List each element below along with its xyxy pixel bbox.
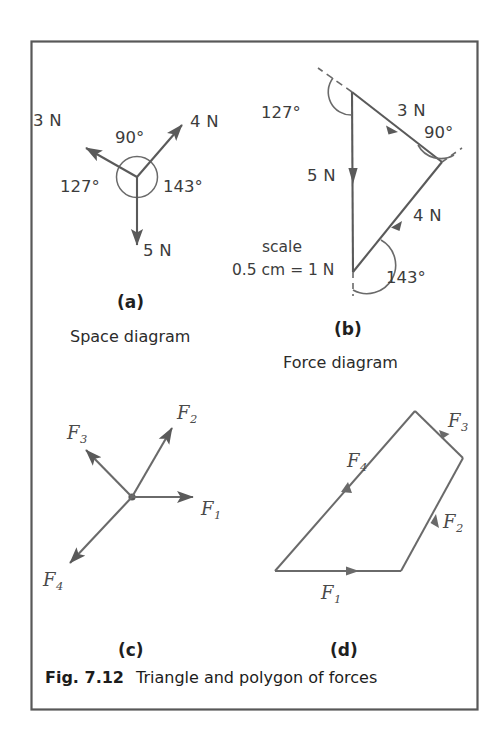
vector-F3 <box>86 450 132 497</box>
label-a-angle-90: 90° <box>115 130 144 147</box>
label-b-tag: (b) <box>334 321 362 338</box>
label-a-tag: (a) <box>117 294 144 311</box>
label-c-F4-index: 4 <box>56 579 63 593</box>
label-d-F1: F1 <box>321 584 341 602</box>
figure-number: Fig. 7.12 <box>45 668 124 687</box>
label-d-F1-index: 1 <box>334 592 341 606</box>
label-c-F1-index: 1 <box>214 508 221 522</box>
dashed-extension-right <box>442 148 462 162</box>
label-b-force-3n: 3 N <box>397 103 426 120</box>
figure-container: 3 N 4 N 5 N 90° 127° 143° (a) Space diag… <box>0 0 493 736</box>
label-b-angle-127: 127° <box>261 105 301 122</box>
label-b-angle-90: 90° <box>424 125 453 142</box>
label-c-F4: F4 <box>43 571 63 589</box>
label-c-tag: (c) <box>118 642 144 659</box>
label-a-force-3n: 3 N <box>33 113 62 130</box>
dashed-extension-top <box>318 68 352 92</box>
label-a-force-4n: 4 N <box>190 114 219 131</box>
label-b-title: Force diagram <box>283 355 398 371</box>
figure-caption-text: Triangle and polygon of forces <box>136 668 377 687</box>
arrowhead-F1 <box>346 566 359 575</box>
label-d-F3-index: 3 <box>461 420 468 434</box>
label-d-tag: (d) <box>330 642 358 659</box>
label-d-F4: F4 <box>347 452 367 470</box>
label-a-angle-143: 143° <box>163 179 203 196</box>
panel-d-force-polygon <box>275 411 463 576</box>
label-d-F2: F2 <box>443 513 463 531</box>
label-b-scale-title: scale <box>262 240 302 256</box>
vector-F4 <box>70 497 132 563</box>
panel-c-concurrent-forces <box>70 428 193 563</box>
arrowhead-F3 <box>439 430 450 439</box>
figure-caption: Fig. 7.12Triangle and polygon of forces <box>45 668 377 687</box>
label-b-force-5n: 5 N <box>307 168 336 185</box>
figure-border <box>32 42 478 710</box>
label-a-title: Space diagram <box>70 329 190 345</box>
label-c-F2-index: 2 <box>190 412 197 426</box>
label-c-F2: F2 <box>177 404 197 422</box>
vector-3n <box>86 148 137 177</box>
label-b-scale-value: 0.5 cm = 1 N <box>232 263 334 279</box>
vector-F2 <box>132 428 172 497</box>
label-b-angle-143: 143° <box>386 270 426 287</box>
label-d-F4-index: 4 <box>360 460 367 474</box>
label-d-F2-index: 2 <box>456 521 463 535</box>
label-c-F3-index: 3 <box>80 432 87 446</box>
panel-b-force-diagram <box>318 68 462 296</box>
arrowhead-5n <box>348 168 357 184</box>
label-a-angle-127: 127° <box>60 179 100 196</box>
label-d-F3: F3 <box>448 412 468 430</box>
label-a-force-5n: 5 N <box>143 243 172 260</box>
label-b-force-4n: 4 N <box>413 208 442 225</box>
label-c-F3: F3 <box>67 424 87 442</box>
label-c-F1: F1 <box>201 500 221 518</box>
